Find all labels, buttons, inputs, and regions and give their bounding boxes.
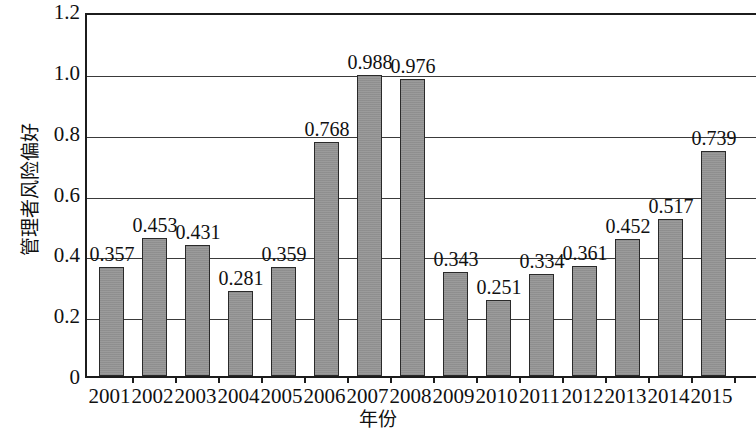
- y-axis-tick-labels: 00.20.40.60.81.01.2: [36, 0, 80, 429]
- x-axis-tick-mark: [175, 376, 177, 383]
- y-tick-label: 0.4: [36, 245, 80, 266]
- y-tick-label: 0.8: [36, 124, 80, 145]
- bar[interactable]: [314, 142, 339, 376]
- bar[interactable]: [615, 239, 640, 376]
- y-tick-label: 0.6: [36, 185, 80, 206]
- x-axis-tick-mark: [734, 376, 736, 383]
- bar[interactable]: [701, 151, 726, 376]
- x-axis-tick-mark: [519, 376, 521, 383]
- y-tick-label: 0.2: [36, 306, 80, 327]
- bar-slot: 0.976: [391, 15, 434, 376]
- x-axis-tick-mark: [691, 376, 693, 383]
- bar[interactable]: [142, 238, 167, 376]
- x-axis-tick-mark: [476, 376, 478, 383]
- chart-figure: 管理者风险偏好 00.20.40.60.81.01.2 0.3570.4530.…: [0, 0, 756, 429]
- bar-slot: 0.517: [649, 15, 692, 376]
- bar-slot: 0.359: [262, 15, 305, 376]
- bar[interactable]: [443, 272, 468, 376]
- y-tick-label: 0: [36, 367, 80, 388]
- bar-slot: 0.361: [563, 15, 606, 376]
- bar[interactable]: [357, 75, 382, 376]
- bar[interactable]: [529, 274, 554, 376]
- x-axis-tick-mark: [218, 376, 220, 383]
- x-axis-tick-mark: [390, 376, 392, 383]
- y-tick-label: 1.2: [36, 2, 80, 23]
- bar-slot: 0.334: [520, 15, 563, 376]
- x-axis-tick-mark: [304, 376, 306, 383]
- bar[interactable]: [228, 291, 253, 376]
- bar-slot: 0.431: [176, 15, 219, 376]
- bar-slot: 0.357: [90, 15, 133, 376]
- y-tick-label: 1.0: [36, 63, 80, 84]
- bar[interactable]: [486, 300, 511, 376]
- bar-slot: 0.343: [434, 15, 477, 376]
- bar-slot: 0.281: [219, 15, 262, 376]
- bar[interactable]: [99, 267, 124, 376]
- bar[interactable]: [658, 219, 683, 376]
- plot-area: 0.3570.4530.4310.2810.3590.7680.9880.976…: [85, 13, 756, 378]
- bar[interactable]: [572, 266, 597, 376]
- bar-slot: 0.453: [133, 15, 176, 376]
- bar-series: 0.3570.4530.4310.2810.3590.7680.9880.976…: [87, 15, 756, 376]
- bar-slot: 0.739: [692, 15, 735, 376]
- x-axis-tick-mark: [347, 376, 349, 383]
- x-axis-tick-mark: [648, 376, 650, 383]
- x-axis-title: 年份: [0, 404, 756, 429]
- x-axis-tick-mark: [261, 376, 263, 383]
- x-axis-tick-mark: [132, 376, 134, 383]
- x-axis-tick-mark: [562, 376, 564, 383]
- bar[interactable]: [185, 245, 210, 376]
- bar[interactable]: [400, 79, 425, 376]
- bar-value-label: 0.739: [682, 128, 746, 148]
- bar[interactable]: [271, 267, 296, 376]
- bar-slot: 0.251: [477, 15, 520, 376]
- x-axis-tick-mark: [605, 376, 607, 383]
- x-axis-tick-mark: [433, 376, 435, 383]
